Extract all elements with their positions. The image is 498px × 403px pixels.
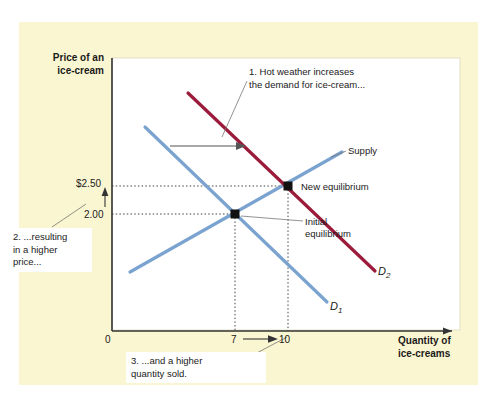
demand-curve-2-label-sub: 2 xyxy=(386,271,390,280)
x-tick-label-0: 0 xyxy=(105,334,111,346)
demand-curve-1-label: D1 xyxy=(330,300,342,315)
annotation-step-2: 2. ...resulting in a higher price... xyxy=(8,228,92,272)
demand-curve-2-label-text: D xyxy=(378,265,386,277)
quantity-increase-arrowhead xyxy=(268,335,278,343)
y-tick-label-200: 2.00 xyxy=(84,209,103,221)
supply-curve-label: Supply xyxy=(348,145,377,157)
initial-equilibrium-label: Initial equilibrium xyxy=(305,216,377,240)
y-tick-label-250: $2.50 xyxy=(76,178,101,190)
x-axis-title: Quantity of ice-creams xyxy=(398,335,474,360)
initial-equilibrium-marker xyxy=(231,210,240,219)
annotation-step-3: 3. ...and a higher quantity sold. xyxy=(126,352,266,383)
note1-leader xyxy=(222,81,247,137)
new-equilibrium-marker xyxy=(284,182,293,191)
demand-curve-1-label-sub: 1 xyxy=(338,306,342,315)
initial-equilibrium-leader xyxy=(241,216,303,221)
new-equilibrium-label: New equilibrium xyxy=(301,181,369,193)
plot-border xyxy=(112,58,460,330)
annotation-step-1: 1. Hot weather increases the demand for … xyxy=(249,66,401,91)
y-axis-title: Price of an ice-cream xyxy=(26,52,104,77)
price-increase-arrowhead xyxy=(102,187,109,196)
x-tick-label-7: 7 xyxy=(231,334,237,346)
x-tick-label-10: 10 xyxy=(279,334,290,346)
x-axis-arrowhead xyxy=(443,328,452,335)
note2-leader xyxy=(52,204,86,227)
demand-curve-2-label: D2 xyxy=(378,265,390,280)
demand-curve-1-label-text: D xyxy=(330,300,338,312)
supply-label-leader xyxy=(331,151,346,157)
supply-demand-figure: Price of an ice-cream Quantity of ice-cr… xyxy=(0,0,498,403)
